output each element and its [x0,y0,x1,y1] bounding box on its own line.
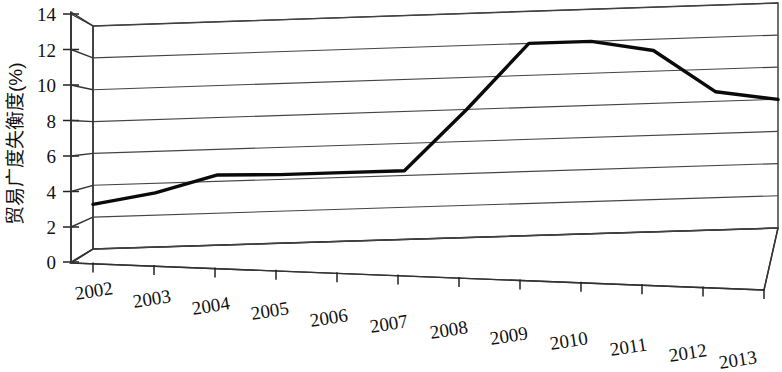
y-tick-label: 8 [47,111,57,132]
x-tick-label: 2013 [717,346,758,372]
left-wall-depth-lines [71,14,93,262]
gridline [93,99,778,121]
x-tick-labels: 2002 2003 2004 2005 2006 2007 2008 2009 … [73,277,758,372]
gridline [93,67,778,90]
data-series-line [93,41,778,204]
y-tick-label: 0 [47,252,57,273]
y-tick-labels: 14 12 10 8 6 4 2 0 [37,4,57,273]
floor-plane [71,228,778,290]
gridline [93,35,778,58]
y-axis-title-text: 贸易广度失衡度(%) [5,62,26,225]
x-tick-label: 2005 [249,297,290,324]
chart-canvas: 14 12 10 8 6 4 2 0 贸易广度失衡度(%) [0,0,782,372]
y-tick-label: 6 [47,146,57,167]
x-tick-label: 2007 [368,310,409,337]
gridline [93,196,778,217]
y-axis-title: 贸易广度失衡度(%) [5,62,26,225]
x-tick-label: 2011 [608,333,648,360]
gridline [93,3,778,26]
floor-front-edge [71,263,764,290]
y-tick-label: 12 [37,40,56,61]
y-tick-label: 10 [37,75,56,96]
x-tick-label: 2002 [73,277,114,304]
y-tick-label: 2 [47,217,57,238]
chart-figure: 14 12 10 8 6 4 2 0 贸易广度失衡度(%) [0,0,782,372]
x-tick-label: 2003 [131,285,172,312]
floor-right-edge [764,228,778,290]
gridlines [93,3,778,249]
x-tick-label: 2004 [190,292,231,319]
data-series-group [93,41,778,204]
back-wall [93,3,778,249]
x-tick-label: 2009 [488,322,529,349]
x-tick-label: 2008 [428,316,469,343]
y-tick-label: 4 [47,182,57,203]
y-tick-label: 14 [37,4,57,25]
x-tick-label: 2006 [308,304,349,331]
x-tick-label: 2012 [667,339,708,366]
gridline [93,228,778,249]
x-tick-label: 2010 [548,327,589,354]
